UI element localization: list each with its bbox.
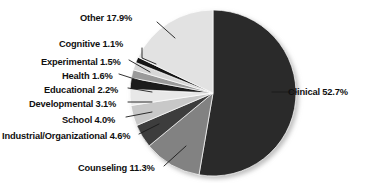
slice-label: School 4.0% xyxy=(62,115,115,126)
slice-label: Cognitive 1.1% xyxy=(59,39,123,50)
slice-label: Clinical 52.7% xyxy=(288,87,348,98)
pie-slice[interactable] xyxy=(199,10,296,176)
pie-chart-figure: Clinical 52.7%Counseling 11.3%Industrial… xyxy=(0,0,368,183)
slice-label: Experimental 1.5% xyxy=(41,57,121,68)
pie-slices xyxy=(130,10,296,176)
slice-label: Developmental 3.1% xyxy=(29,99,116,110)
slice-label: Health 1.6% xyxy=(62,71,113,82)
slice-label: Other 17.9% xyxy=(80,13,132,24)
slice-label: Educational 2.2% xyxy=(44,85,118,96)
slice-label: Counseling 11.3% xyxy=(78,163,155,174)
slice-label: Industrial/Organizational 4.6% xyxy=(2,131,130,142)
